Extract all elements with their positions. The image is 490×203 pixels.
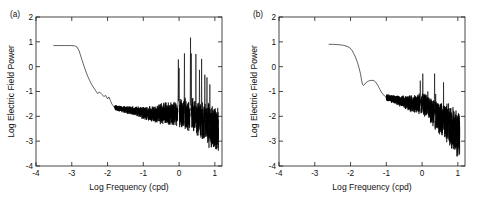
xtick-b-m1: -1: [383, 169, 391, 178]
xtick-a-0: 0: [177, 169, 182, 178]
xtick-b-1: 1: [456, 169, 461, 178]
ytick-b-m1: -1: [269, 87, 277, 96]
xtick-a-1: 1: [213, 169, 218, 178]
ytick-b-1: 1: [271, 38, 276, 47]
panel-b-x-ticklabels: -4 -3 -2 -1 0 1: [275, 169, 460, 178]
panel-a-axes-box: [36, 17, 222, 166]
panel-a-x-ticklabels: -4 -3 -2 -1 0 1: [32, 169, 217, 178]
panel-b-xlabel: Log Frequency (cpd): [332, 182, 411, 192]
panel-a-ylabel: Log Electric Field Power: [6, 45, 16, 138]
ytick-b-m3: -3: [269, 137, 277, 146]
xtick-a-m4: -4: [32, 169, 40, 178]
panel-b: (b) 2 1 0 -: [249, 10, 465, 192]
xtick-a-m1: -1: [140, 169, 148, 178]
ytick-a-m2: -2: [26, 112, 34, 121]
panel-a-xlabel: Log Frequency (cpd): [89, 182, 168, 192]
panel-b-label: (b): [253, 10, 263, 19]
xtick-b-m3: -3: [311, 169, 319, 178]
panel-b-ylabel: Log Electric Field Power: [249, 45, 259, 138]
panel-a-label: (a): [10, 10, 20, 19]
panel-b-axes-box: [279, 17, 465, 166]
ytick-b-2: 2: [271, 13, 276, 22]
ytick-a-0: 0: [28, 63, 33, 72]
ytick-a-m1: -1: [26, 87, 34, 96]
panel-a: (a) 2 1 0 -: [6, 10, 222, 192]
xtick-a-m2: -2: [104, 169, 112, 178]
ytick-a-2: 2: [28, 13, 33, 22]
xtick-b-0: 0: [420, 169, 425, 178]
figure-container: (a) 2 1 0 -: [0, 0, 490, 203]
spectra-figure: (a) 2 1 0 -: [0, 0, 490, 203]
ytick-b-m2: -2: [269, 112, 277, 121]
ytick-a-1: 1: [28, 38, 33, 47]
panel-a-y-ticklabels: 2 1 0 -1 -2 -3 -4: [26, 13, 34, 171]
xtick-b-m2: -2: [347, 169, 355, 178]
xtick-a-m3: -3: [68, 169, 76, 178]
ytick-a-m3: -3: [26, 137, 34, 146]
panel-b-y-ticklabels: 2 1 0 -1 -2 -3 -4: [269, 13, 277, 171]
xtick-b-m4: -4: [275, 169, 283, 178]
ytick-b-0: 0: [271, 63, 276, 72]
